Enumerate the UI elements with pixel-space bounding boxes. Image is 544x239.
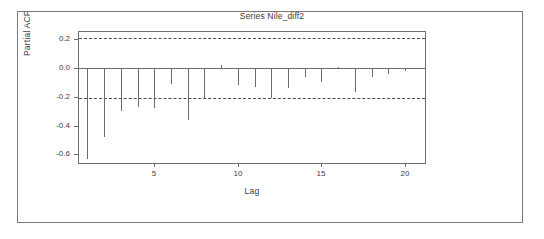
- x-tick-label-3: 20: [390, 169, 420, 178]
- y-tick-0: [74, 39, 78, 40]
- y-tick-label-4: -0.6: [36, 149, 70, 158]
- pacf-bar-lag-3: [121, 68, 122, 111]
- x-tick-label-0: 5: [139, 169, 169, 178]
- pacf-bar-lag-10: [238, 68, 239, 85]
- pacf-bar-lag-19: [388, 68, 389, 74]
- pacf-bar-lag-20: [405, 68, 406, 71]
- pacf-bar-lag-4: [138, 68, 139, 107]
- pacf-bar-lag-11: [255, 68, 256, 87]
- y-tick-2: [74, 97, 78, 98]
- pacf-bar-lag-12: [271, 68, 272, 98]
- zero-line: [79, 68, 425, 69]
- x-tick-1: [238, 163, 239, 167]
- plot-area: [78, 31, 426, 164]
- pacf-bar-lag-2: [104, 68, 105, 137]
- pacf-bar-lag-16: [338, 67, 339, 68]
- pacf-bar-lag-9: [221, 65, 222, 68]
- pacf-bar-lag-7: [188, 68, 189, 120]
- x-tick-label-1: 10: [223, 169, 253, 178]
- pacf-bar-lag-17: [355, 68, 356, 92]
- pacf-bar-lag-6: [171, 68, 172, 84]
- pacf-chart: Series Nile_diff2 Partial ACF 0.20.0-0.2…: [0, 0, 544, 239]
- y-tick-label-1: 0.0: [36, 63, 70, 72]
- x-tick-label-2: 15: [306, 169, 336, 178]
- y-axis-title: Partial ACF: [22, 11, 32, 56]
- plot-surface: [79, 32, 425, 163]
- confidence-band-upper: [79, 38, 425, 39]
- pacf-bar-lag-15: [321, 68, 322, 82]
- y-tick-1: [74, 68, 78, 69]
- chart-title: Series Nile_diff2: [0, 11, 544, 21]
- y-tick-label-3: -0.4: [36, 121, 70, 130]
- y-tick-label-0: 0.2: [36, 34, 70, 43]
- x-axis-title: Lag: [78, 186, 426, 196]
- pacf-bar-lag-5: [154, 68, 155, 108]
- y-tick-3: [74, 126, 78, 127]
- confidence-band-lower: [79, 98, 425, 99]
- y-tick-label-2: -0.2: [36, 92, 70, 101]
- x-tick-2: [321, 163, 322, 167]
- pacf-bar-lag-14: [305, 68, 306, 77]
- x-tick-0: [154, 163, 155, 167]
- x-tick-3: [405, 163, 406, 167]
- pacf-bar-lag-21: [422, 68, 423, 69]
- pacf-bar-lag-8: [204, 68, 205, 98]
- pacf-bar-lag-1: [87, 68, 88, 159]
- pacf-bar-lag-13: [288, 68, 289, 88]
- pacf-bar-lag-18: [372, 68, 373, 77]
- y-tick-4: [74, 154, 78, 155]
